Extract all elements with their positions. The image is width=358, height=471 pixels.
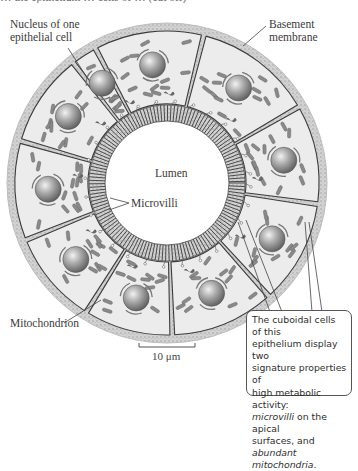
mitochondrion-label: Mitochondrion — [10, 317, 79, 330]
nucleus-icon — [63, 246, 89, 272]
scale-bar — [139, 343, 195, 347]
lumen — [105, 121, 229, 245]
callout-box: The cuboidal cells of this epithelium di… — [246, 310, 352, 396]
vesicle — [229, 237, 232, 240]
vesicle — [126, 255, 129, 258]
nucleus-icon — [123, 285, 149, 311]
nucleus-label: Nucleus of one epithelial cell — [10, 18, 80, 44]
callout-line-2: epithelium display two — [252, 338, 347, 362]
mitochondrion-icon — [160, 86, 170, 90]
vesicle — [84, 177, 87, 180]
vesicle — [236, 137, 239, 140]
vesicle — [181, 264, 184, 267]
nucleus-label-line1: Nucleus of one — [10, 18, 80, 31]
callout-line-5: microvilli on the apical — [252, 411, 347, 435]
vesicle — [144, 262, 147, 265]
callout-line-7: mitochondria. — [252, 459, 347, 471]
callout-italic-mitochondria: mitochondria — [252, 459, 314, 470]
vesicle — [245, 154, 248, 157]
callout-line-6-rest: surfaces, and — [252, 435, 315, 446]
vesicle — [90, 214, 93, 217]
mitochondrion-icon — [191, 276, 201, 280]
nucleus-icon — [199, 280, 225, 306]
lumen-label: Lumen — [155, 167, 188, 180]
vesicle — [215, 250, 218, 253]
callout-line-3: signature properties of — [252, 362, 347, 386]
vesicle — [192, 104, 195, 107]
callout-italic-microvilli: microvilli — [252, 411, 294, 422]
nucleus-icon — [139, 52, 165, 78]
callout-line-7-rest: . — [314, 459, 317, 470]
vesicle — [120, 114, 123, 117]
scale-bar-label: 10 μm — [152, 350, 180, 362]
callout-line-1: The cuboidal cells of this — [252, 314, 347, 338]
vesicle — [99, 230, 102, 233]
nucleus-icon — [35, 176, 61, 202]
nucleus-label-line2: epithelial cell — [10, 31, 80, 44]
microvillus — [164, 105, 165, 122]
vesicle — [224, 123, 227, 126]
vesicle — [137, 105, 140, 108]
vesicle — [209, 112, 212, 115]
basement-membrane-label: Basement membrane — [269, 18, 318, 44]
vesicle — [250, 186, 253, 189]
vesicle — [174, 100, 177, 103]
nucleus-icon — [259, 226, 285, 252]
callout-italic-abundant: abundant — [252, 447, 297, 458]
vesicle — [199, 259, 202, 262]
nucleus-icon — [271, 147, 297, 173]
microvilli-label: Microvilli — [131, 197, 178, 210]
basement-membrane-leader — [243, 26, 266, 46]
vesicle — [155, 101, 158, 104]
vesicle — [111, 244, 114, 247]
vesicle — [95, 141, 98, 144]
basement-membrane-label-line2: membrane — [269, 31, 318, 44]
mitochondrion-icon — [50, 122, 54, 132]
basement-membrane-label-line1: Basement — [269, 18, 318, 31]
mitochondrion-icon — [79, 164, 83, 174]
vesicle — [87, 158, 90, 161]
lumen-space — [105, 121, 229, 245]
vesicle — [247, 204, 250, 207]
microvillus — [89, 180, 106, 181]
nucleus-icon — [55, 103, 81, 129]
callout-line-6: surfaces, and abundant — [252, 435, 347, 459]
vesicle — [106, 126, 109, 129]
vesicle — [85, 196, 88, 199]
mitochondrion-icon — [76, 162, 79, 172]
mitochondrion-icon — [287, 128, 290, 138]
mitochondrion-icon — [263, 144, 266, 154]
vesicle — [240, 222, 243, 225]
nucleus-icon — [89, 70, 115, 96]
mitochondrion-icon — [212, 81, 222, 85]
vesicle — [162, 266, 165, 269]
vesicle — [249, 173, 252, 176]
callout-line-4: high metabolic activity: — [252, 387, 347, 411]
nucleus-icon — [226, 75, 252, 101]
